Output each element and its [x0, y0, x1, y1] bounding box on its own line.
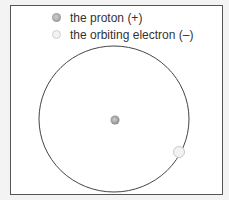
proton-icon	[111, 116, 120, 125]
legend: the proton (+) the orbiting electron (–)	[52, 9, 193, 43]
proton-dot-icon	[52, 13, 61, 22]
legend-item-proton: the proton (+)	[52, 9, 193, 26]
legend-item-electron: the orbiting electron (–)	[52, 26, 193, 43]
electron-icon	[174, 147, 185, 158]
electron-dot-icon	[52, 30, 61, 39]
legend-label: the orbiting electron (–)	[70, 28, 193, 42]
legend-label: the proton (+)	[70, 11, 142, 25]
